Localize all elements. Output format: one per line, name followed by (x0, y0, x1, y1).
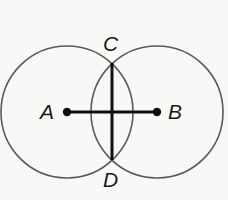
point-label-d: D (103, 169, 118, 190)
point-label-b: B (168, 101, 182, 122)
point-a-dot (63, 108, 71, 116)
geometry-figure: A B C D (0, 0, 228, 200)
point-label-c: C (103, 33, 118, 54)
point-b-dot (153, 108, 161, 116)
point-label-a: A (40, 101, 54, 122)
